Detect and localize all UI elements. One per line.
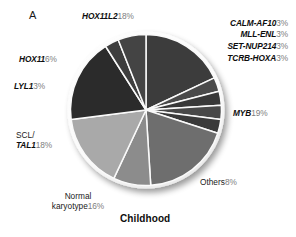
slice-label-normal-karyotype: Normal karyotype16%: [30, 191, 126, 212]
slice-label-mll-enl-pct: 3%: [276, 29, 288, 39]
slice-label-normal-karyotype-pct: 16%: [88, 201, 104, 211]
slice-label-hox11-pct: 6%: [45, 54, 57, 64]
slice-label-others-pct: 8%: [225, 177, 237, 187]
chart-title: Childhood: [120, 213, 170, 224]
slice-label-myb: MYB19%: [233, 108, 267, 118]
slice-label-lyl1-gene: LYL1: [14, 81, 33, 91]
slice-label-mll-enl-gene: MLL-ENL: [240, 29, 276, 39]
slice-label-set-nup214: SET-NUP2143%: [227, 41, 288, 51]
slice-label-others-name: Others: [200, 177, 225, 187]
slice-label-set-nup214-gene: SET-NUP214: [227, 41, 276, 51]
slice-label-lyl1: LYL13%: [14, 81, 45, 91]
slice-label-myb-pct: 19%: [251, 108, 267, 118]
slice-label-calm-af10: CALM-AF103%: [230, 18, 288, 28]
slice-label-mll-enl: MLL-ENL3%: [240, 29, 288, 39]
slice-label-hox11: HOX116%: [19, 54, 57, 64]
slice-label-hox11-gene: HOX11: [19, 54, 45, 64]
slice-label-set-nup214-pct: 3%: [276, 41, 288, 51]
slice-label-calm-af10-gene: CALM-AF10: [230, 18, 276, 28]
slice-label-others: Others8%: [200, 177, 237, 187]
slice-label-normal-karyotype-line1: Normal: [65, 191, 92, 201]
slice-label-lyl1-pct: 3%: [33, 81, 45, 91]
slice-label-calm-af10-pct: 3%: [276, 18, 288, 28]
slice-label-hox11l2-pct: 18%: [118, 11, 134, 21]
slice-label-tcrb-hoxa-pct: 3%: [276, 53, 288, 63]
slice-label-scl-tal1: SCL/ TAL118%: [16, 130, 52, 151]
slice-label-myb-gene: MYB: [233, 108, 251, 118]
slice-label-scl-tal1-pct: 18%: [36, 140, 52, 150]
slice-label-tcrb-hoxa: TCRB-HOXA3%: [227, 53, 288, 63]
slice-label-normal-karyotype-line2: karyotype: [52, 201, 88, 211]
slice-label-hox11l2: HOX11L218%: [82, 11, 134, 21]
slice-label-hox11l2-gene: HOX11L2: [82, 11, 118, 21]
slice-label-scl-tal1-line1: SCL/: [16, 130, 34, 140]
figure-panel-a: A: [0, 0, 296, 237]
slice-label-tcrb-hoxa-gene: TCRB-HOXA: [227, 53, 276, 63]
slice-label-scl-tal1-gene: TAL1: [16, 140, 36, 150]
pie-slice-group: [71, 35, 222, 186]
